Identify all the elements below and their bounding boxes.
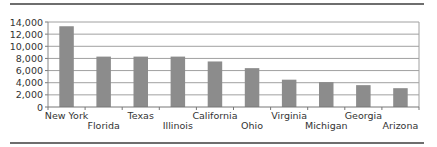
bar: [171, 57, 186, 107]
y-tick-label: 14,000: [10, 17, 43, 28]
x-tick-label: Arizona: [383, 120, 419, 131]
y-tick-label: 4,000: [16, 77, 43, 88]
y-tick-label: 6,000: [16, 65, 43, 76]
y-tick-label: 2,000: [16, 89, 43, 100]
bar: [282, 80, 297, 107]
bar: [393, 88, 408, 107]
y-tick-label: 8,000: [16, 53, 43, 64]
y-axis: 02,0004,0006,0008,00010,00012,00014,000: [10, 17, 48, 113]
x-tick-label: Florida: [87, 120, 119, 131]
x-tick-label: Virginia: [271, 110, 307, 121]
y-tick-label: 10,000: [10, 41, 43, 52]
bar: [59, 26, 74, 107]
y-tick-label: 12,000: [10, 29, 43, 40]
x-tick-label: Ohio: [241, 120, 263, 131]
x-tick-label: California: [192, 110, 237, 121]
bar: [319, 82, 334, 107]
x-tick-label: New York: [45, 110, 89, 121]
x-tick-label: Michigan: [305, 120, 348, 131]
bar: [245, 68, 259, 107]
bar: [96, 57, 111, 107]
bar: [134, 57, 149, 107]
bar: [208, 61, 223, 107]
x-axis: New YorkFloridaTexasIllinoisCaliforniaOh…: [45, 107, 419, 131]
x-tick-label: Georgia: [345, 110, 382, 121]
x-tick-label: Illinois: [163, 120, 193, 131]
bar-chart: 02,0004,0006,0008,00010,00012,00014,000 …: [0, 0, 437, 147]
x-tick-label: Texas: [127, 110, 154, 121]
bar: [356, 85, 371, 107]
bottom-rule: [10, 142, 424, 144]
y-tick-label: 0: [37, 102, 43, 113]
